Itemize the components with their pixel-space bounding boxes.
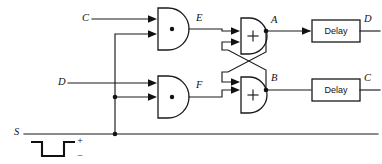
or-gate-top bbox=[241, 18, 267, 54]
wire-a-output bbox=[268, 27, 311, 35]
and-gate-bottom-symbol-dot bbox=[170, 95, 174, 99]
input-label-c: C bbox=[82, 12, 90, 23]
and-gate-bottom bbox=[158, 76, 189, 118]
input-label-s: S bbox=[14, 126, 20, 137]
waveform-minus-label: − bbox=[77, 150, 83, 161]
delay-block-bottom-label: Delay bbox=[324, 85, 348, 95]
junction-dot-s-and-bottom bbox=[113, 95, 118, 100]
input-label-d: D bbox=[57, 76, 66, 87]
output-label-d: D bbox=[363, 13, 372, 24]
and-gate-top-symbol-dot bbox=[170, 27, 174, 31]
circuit-diagram-svg: C D S bbox=[0, 0, 382, 164]
wire-e-to-or-top bbox=[189, 27, 240, 35]
delay-block-top: Delay bbox=[312, 20, 360, 42]
delay-block-top-label: Delay bbox=[324, 26, 348, 36]
signal-label-e: E bbox=[195, 12, 203, 23]
s-pulse-waveform bbox=[31, 142, 75, 156]
wire-d-to-and-bottom bbox=[68, 79, 157, 87]
signal-label-f: F bbox=[195, 79, 203, 90]
and-gate-top bbox=[158, 8, 189, 50]
circuit-diagram-canvas: C D S bbox=[0, 0, 382, 164]
or-gate-bottom bbox=[241, 77, 267, 113]
delay-block-bottom: Delay bbox=[312, 79, 360, 101]
waveform-plus-label: + bbox=[77, 135, 83, 146]
signal-label-b: B bbox=[271, 72, 278, 83]
wire-c-to-and-top bbox=[92, 15, 157, 23]
signal-label-a: A bbox=[270, 14, 278, 25]
junction-dot-s-main bbox=[113, 132, 118, 137]
wire-s-branch-to-and-bottom bbox=[115, 93, 157, 101]
output-label-c: C bbox=[364, 72, 372, 83]
